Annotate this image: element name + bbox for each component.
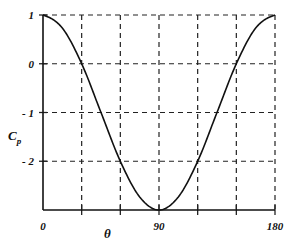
axes bbox=[39, 15, 275, 215]
y-axis-title: Cp bbox=[8, 128, 22, 146]
y-tick-label: - 1 bbox=[22, 107, 34, 119]
y-tick-label: 0 bbox=[29, 58, 35, 70]
x-tick-label: 90 bbox=[154, 220, 166, 232]
x-axis-title: θ bbox=[104, 226, 111, 241]
y-tick-label: - 2 bbox=[22, 155, 34, 167]
grid-lines bbox=[43, 15, 275, 210]
x-tick-label: 180 bbox=[267, 220, 284, 232]
pressure-coefficient-chart: 09018010- 1- 2 Cp θ bbox=[0, 0, 295, 250]
tick-labels: 09018010- 1- 2 bbox=[22, 9, 284, 232]
x-tick-label: 0 bbox=[40, 220, 46, 232]
y-tick-label: 1 bbox=[29, 9, 35, 21]
